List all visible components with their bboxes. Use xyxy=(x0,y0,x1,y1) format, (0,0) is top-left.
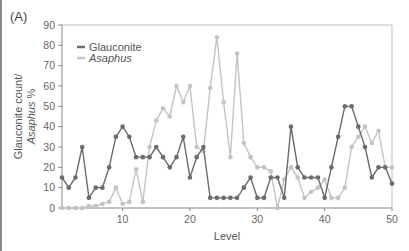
data-point-glauconite xyxy=(80,145,85,150)
data-point-glauconite xyxy=(188,175,193,180)
y-tick-label: 40 xyxy=(43,120,55,132)
data-point-glauconite xyxy=(316,175,321,180)
data-point-asaphus xyxy=(376,128,381,133)
data-point-glauconite xyxy=(107,165,112,170)
data-point-glauconite xyxy=(228,196,233,201)
line-chart: 01020304050607080901020304050LevelGlauco… xyxy=(0,0,409,251)
y-tick-label: 70 xyxy=(43,59,55,71)
data-point-glauconite xyxy=(376,165,381,170)
y-tick-label: 10 xyxy=(43,181,55,193)
data-point-asaphus xyxy=(154,118,159,123)
data-point-glauconite xyxy=(154,145,159,150)
data-point-glauconite xyxy=(349,104,354,109)
data-point-asaphus xyxy=(114,185,119,190)
data-point-glauconite xyxy=(309,175,314,180)
data-point-glauconite xyxy=(114,135,119,140)
y-tick-label: 0 xyxy=(49,202,55,214)
data-point-glauconite xyxy=(147,155,152,160)
data-point-asaphus xyxy=(147,145,152,150)
data-point-glauconite xyxy=(194,155,199,160)
data-point-glauconite xyxy=(134,155,139,160)
data-point-glauconite xyxy=(174,155,179,160)
data-point-asaphus xyxy=(66,206,71,211)
data-point-glauconite xyxy=(268,175,273,180)
data-point-asaphus xyxy=(73,206,78,211)
data-point-asaphus xyxy=(349,145,354,150)
data-point-glauconite xyxy=(181,135,186,140)
y-tick-label: 20 xyxy=(43,161,55,173)
data-point-glauconite xyxy=(235,196,240,201)
data-point-glauconite xyxy=(167,165,172,170)
data-point-asaphus xyxy=(188,84,193,89)
data-point-glauconite xyxy=(302,175,307,180)
data-point-glauconite xyxy=(255,196,260,201)
data-point-glauconite xyxy=(369,175,374,180)
data-point-asaphus xyxy=(215,35,220,40)
data-point-asaphus xyxy=(262,165,267,170)
data-point-asaphus xyxy=(343,185,348,190)
y-tick-label: 50 xyxy=(43,100,55,112)
data-point-glauconite xyxy=(221,196,226,201)
data-point-glauconite xyxy=(322,196,327,201)
data-point-asaphus xyxy=(316,185,321,190)
x-tick-label: 20 xyxy=(184,213,196,225)
data-point-glauconite xyxy=(363,145,368,150)
x-tick-label: 10 xyxy=(117,213,129,225)
data-point-glauconite xyxy=(343,104,348,109)
x-tick-label: 30 xyxy=(251,213,263,225)
data-point-asaphus xyxy=(134,167,139,172)
data-point-glauconite xyxy=(295,165,300,170)
data-point-asaphus xyxy=(100,202,105,207)
data-point-glauconite xyxy=(215,196,220,201)
data-point-asaphus xyxy=(87,204,92,209)
data-point-glauconite xyxy=(383,165,388,170)
data-point-asaphus xyxy=(248,155,253,160)
data-point-glauconite xyxy=(242,185,247,190)
data-point-glauconite xyxy=(73,175,78,180)
data-point-asaphus xyxy=(181,100,186,105)
legend-label-asaphus: Asaphus xyxy=(88,52,132,64)
data-point-glauconite xyxy=(289,124,294,129)
y-tick-label: 80 xyxy=(43,39,55,51)
data-point-glauconite xyxy=(93,185,98,190)
data-point-glauconite xyxy=(120,124,125,129)
data-point-asaphus xyxy=(363,124,368,129)
data-point-asaphus xyxy=(60,206,65,211)
data-point-asaphus xyxy=(93,204,98,209)
data-point-asaphus xyxy=(167,114,172,119)
series-line-glauconite xyxy=(62,106,392,197)
data-point-glauconite xyxy=(248,175,253,180)
data-point-asaphus xyxy=(329,196,334,201)
data-point-glauconite xyxy=(390,181,395,186)
data-point-asaphus xyxy=(174,84,179,89)
data-point-asaphus xyxy=(141,200,146,205)
data-point-asaphus xyxy=(336,196,341,201)
y-tick-label: 90 xyxy=(43,19,55,31)
x-tick-label: 40 xyxy=(319,213,331,225)
data-point-asaphus xyxy=(322,177,327,182)
data-point-asaphus xyxy=(242,141,247,146)
x-axis-title: Level xyxy=(214,230,240,242)
data-point-glauconite xyxy=(127,135,132,140)
data-point-asaphus xyxy=(369,141,374,146)
data-point-asaphus xyxy=(107,200,112,205)
data-point-glauconite xyxy=(208,196,213,201)
data-point-asaphus xyxy=(289,165,294,170)
data-point-glauconite xyxy=(336,135,341,140)
data-point-asaphus xyxy=(268,169,273,174)
data-point-glauconite xyxy=(141,155,146,160)
data-point-asaphus xyxy=(194,145,199,150)
data-point-asaphus xyxy=(120,202,125,207)
data-point-glauconite xyxy=(66,185,71,190)
y-tick-label: 60 xyxy=(43,80,55,92)
data-point-asaphus xyxy=(228,155,233,160)
x-tick-label: 50 xyxy=(386,213,398,225)
data-point-glauconite xyxy=(282,196,287,201)
data-point-asaphus xyxy=(221,100,226,105)
data-point-asaphus xyxy=(390,165,395,170)
data-point-asaphus xyxy=(80,206,85,211)
data-point-glauconite xyxy=(100,185,105,190)
data-point-asaphus xyxy=(127,200,132,205)
y-axis-title-line2: Asaphus % xyxy=(25,88,37,145)
data-point-glauconite xyxy=(87,196,92,201)
